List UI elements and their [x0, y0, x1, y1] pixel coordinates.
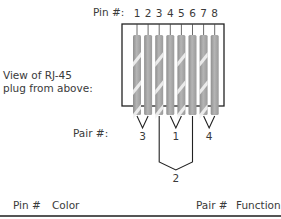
wire-7	[200, 35, 208, 115]
pair-number-3: 3	[139, 130, 146, 142]
pin-number-5: 5	[178, 7, 185, 19]
pair-brackets: 3142	[137, 116, 215, 184]
wire-2	[144, 35, 152, 115]
pair-bracket-1	[170, 116, 181, 128]
pin-number-2: 2	[145, 7, 152, 19]
pin-numbers: 12345678	[134, 7, 218, 19]
pair-bracket-4	[204, 116, 215, 128]
wire-6	[189, 35, 197, 115]
wire-3	[155, 35, 163, 115]
wire-1	[133, 35, 141, 115]
table-header-function: Function	[236, 199, 281, 211]
pin-number-8: 8	[211, 7, 218, 19]
table-header-pair: Pair #	[196, 199, 228, 211]
pair-bracket-3	[137, 116, 148, 128]
pair-number-1: 1	[173, 130, 180, 142]
pair-number-2: 2	[173, 172, 180, 184]
pin-number-1: 1	[134, 7, 141, 19]
table-header-pin: Pin #	[13, 199, 41, 211]
wire-4	[166, 35, 174, 115]
pair-number-4: 4	[206, 130, 213, 142]
table-header-color: Color	[52, 199, 79, 211]
pin-number-7: 7	[200, 7, 207, 19]
pin-number-6: 6	[189, 7, 196, 19]
wire-8	[211, 35, 219, 115]
pair-bracket-2	[159, 116, 192, 170]
pin-number-3: 3	[156, 7, 163, 19]
rj45-plug-diagram: 12345678 3142	[0, 0, 281, 219]
pin-number-4: 4	[167, 7, 174, 19]
table-header-rule	[0, 215, 281, 217]
wire-5	[177, 35, 185, 115]
